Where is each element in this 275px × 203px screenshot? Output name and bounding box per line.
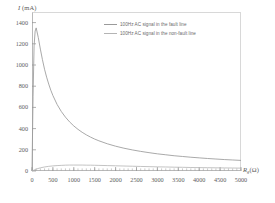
legend-item-fault: 100Hz AC signal in the fault line	[104, 20, 230, 28]
series-line-0	[32, 28, 241, 171]
legend-line-swatch-fault	[104, 24, 117, 25]
x-tick-label: 5000	[228, 176, 254, 183]
y-tick-label: 0	[2, 167, 28, 174]
y-tick-label: 200	[2, 146, 28, 153]
chart-legend: 100Hz AC signal in the fault line 100Hz …	[104, 20, 230, 38]
y-tick-label: 1400	[2, 19, 28, 26]
legend-label-non-fault: 100Hz AC signal in the non-fault line	[120, 31, 196, 36]
legend-item-non-fault: 100Hz AC signal in the non-fault line	[104, 29, 230, 37]
y-tick-label: 800	[2, 82, 28, 89]
chart-figure: I (mA) Rg(Ω) 0200400600800100012001400 0…	[0, 0, 275, 203]
legend-line-swatch-non-fault	[104, 33, 117, 34]
y-tick-label: 600	[2, 103, 28, 110]
y-tick-label: 1200	[2, 40, 28, 47]
legend-label-fault: 100Hz AC signal in the fault line	[120, 22, 187, 27]
y-tick-label: 400	[2, 125, 28, 132]
series-lines	[32, 28, 241, 171]
y-tick-label: 1000	[2, 61, 28, 68]
